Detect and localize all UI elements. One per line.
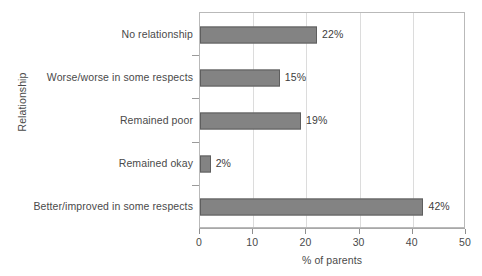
y-axis-tick [192, 142, 199, 143]
gridline [413, 13, 414, 227]
category-label: Remained poor [0, 114, 193, 126]
bar [200, 69, 280, 86]
x-axis-tick-label: 0 [179, 236, 219, 248]
bar-value-label: 42% [428, 200, 449, 212]
bar [200, 113, 301, 130]
x-axis-tick [412, 229, 413, 234]
x-axis-tick-label: 10 [232, 236, 272, 248]
bar-chart: Relationship Better/improved in some res… [0, 0, 482, 276]
x-axis-tick-label: 50 [445, 236, 482, 248]
x-axis-title: % of parents [199, 254, 465, 266]
x-axis-tick [305, 229, 306, 234]
bar-value-label: 22% [322, 28, 343, 40]
bar [200, 199, 423, 216]
bar-value-label: 15% [285, 71, 306, 83]
x-axis-tick-label: 30 [339, 236, 379, 248]
category-label: Worse/worse in some respects [0, 71, 193, 83]
bar-value-label: 19% [306, 114, 327, 126]
x-axis-line [199, 228, 465, 229]
bar [200, 156, 211, 173]
x-axis-tick [199, 229, 200, 234]
bar-value-label: 2% [216, 157, 231, 169]
x-axis-tick [252, 229, 253, 234]
y-axis-category-labels: Better/improved in some respectsRemained… [0, 12, 193, 228]
category-label: Better/improved in some respects [0, 200, 193, 212]
bar [200, 26, 317, 43]
x-axis-tick [465, 229, 466, 234]
category-label: No relationship [0, 28, 193, 40]
x-axis-tick-label: 20 [285, 236, 325, 248]
x-axis-tick-label: 40 [392, 236, 432, 248]
y-axis-tick [192, 55, 199, 56]
y-axis-tick [192, 98, 199, 99]
y-axis-tick [192, 185, 199, 186]
plot-inner [200, 13, 464, 227]
gridline [360, 13, 361, 227]
x-axis-tick [359, 229, 360, 234]
category-label: Remained okay [0, 157, 193, 169]
plot-area [199, 12, 465, 228]
